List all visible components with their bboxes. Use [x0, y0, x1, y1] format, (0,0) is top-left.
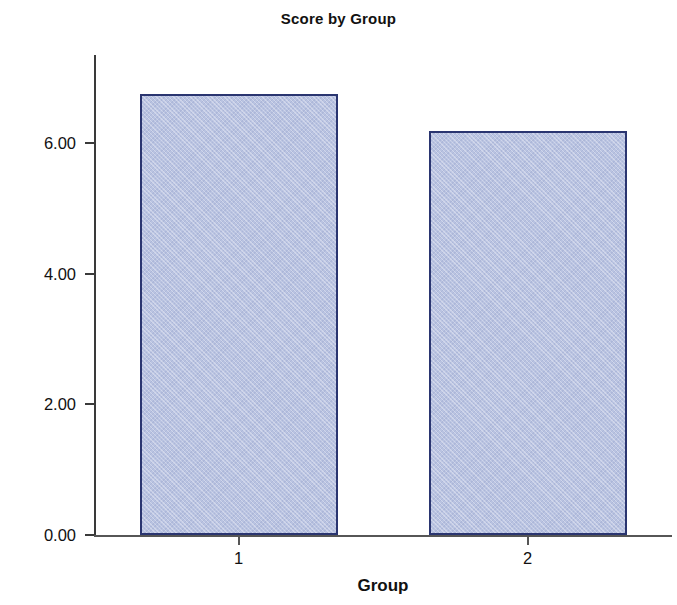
x-axis-tick — [238, 535, 240, 545]
x-axis-tick-label: 2 — [468, 549, 588, 568]
y-axis-tick-label: 0.00 — [6, 526, 76, 545]
y-axis-tick — [85, 403, 94, 405]
x-axis-tick-label: 1 — [179, 549, 299, 568]
y-axis-tick — [85, 534, 94, 536]
y-axis-line — [94, 55, 96, 536]
y-axis-tick-label: 4.00 — [6, 264, 76, 283]
y-axis-tick — [85, 142, 94, 144]
x-axis-tick — [527, 535, 529, 545]
chart-title: Score by Group — [0, 10, 677, 27]
bar-group-2 — [429, 131, 627, 535]
y-axis-tick-label: 2.00 — [6, 395, 76, 414]
x-axis-line — [94, 535, 672, 537]
plot-area: 0.002.004.006.00 12 — [94, 55, 672, 535]
y-axis-tick-labels: 0.002.004.006.00 — [6, 55, 76, 536]
y-axis-tick — [85, 273, 94, 275]
x-axis-title: Group — [94, 576, 672, 596]
y-axis-tick-label: 6.00 — [6, 134, 76, 153]
bar-chart: Score by Group 0.002.004.006.00 12 Mean … — [0, 0, 677, 605]
bar-group-1 — [140, 94, 338, 535]
